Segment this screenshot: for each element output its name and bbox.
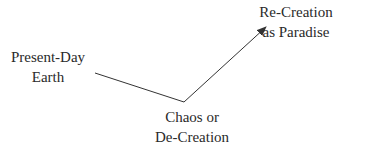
node-label-line: Re-Creation — [246, 2, 346, 22]
node-label-line: Present-Day — [8, 47, 88, 67]
node-re-creation-paradise: Re-Creation as Paradise — [246, 2, 346, 42]
node-label-line: Earth — [8, 67, 88, 87]
node-label-line: De-Creation — [142, 127, 242, 147]
line-present-to-chaos — [95, 73, 184, 102]
node-label-line: as Paradise — [246, 22, 346, 42]
node-present-day-earth: Present-Day Earth — [8, 47, 88, 87]
node-label-line: Chaos or — [142, 107, 242, 127]
node-chaos-de-creation: Chaos or De-Creation — [142, 107, 242, 147]
